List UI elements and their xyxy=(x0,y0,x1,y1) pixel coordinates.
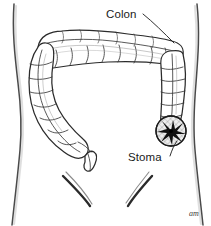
stoma-opening xyxy=(156,116,186,146)
colon-label: Colon xyxy=(106,8,137,20)
colostomy-diagram: Colon Stoma am xyxy=(0,0,211,226)
stoma-label: Stoma xyxy=(128,151,162,163)
illustration-canvas: Colon Stoma am xyxy=(0,0,211,226)
stoma-center xyxy=(169,129,173,133)
artist-signature-icon: am xyxy=(189,209,199,218)
